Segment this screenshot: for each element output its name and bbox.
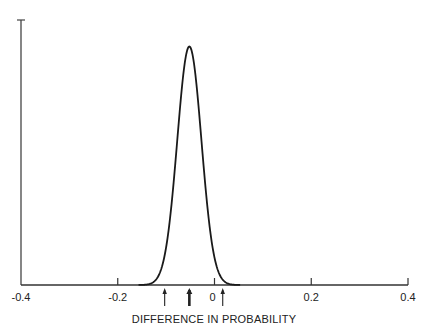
x-axis-ticks [118, 278, 408, 285]
arrow-mean [186, 288, 192, 306]
arrow-upper-bound [221, 288, 225, 306]
x-axis-title: DIFFERENCE IN PROBABILITY [132, 313, 297, 325]
x-tick-label: 0.2 [304, 291, 319, 303]
x-axis-tick-labels: -0.4-0.200.20.4 [12, 291, 416, 303]
arrow-lower-bound [162, 288, 166, 306]
x-tick-label: -0.4 [12, 291, 31, 303]
x-tick-label: -0.2 [108, 291, 127, 303]
density-chart: -0.4-0.200.20.4 DIFFERENCE IN PROBABILIT… [0, 0, 425, 334]
x-tick-label: 0 [209, 291, 215, 303]
density-curve [139, 47, 241, 285]
x-tick-label: 0.4 [400, 291, 415, 303]
